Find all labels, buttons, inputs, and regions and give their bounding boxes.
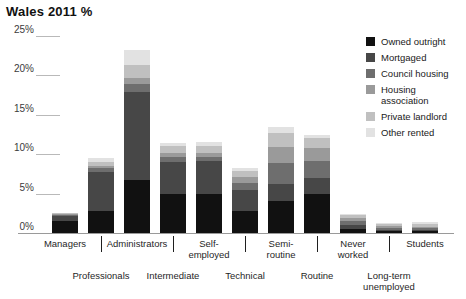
bar-segment	[196, 161, 222, 195]
bar-segment	[88, 172, 114, 211]
x-axis-labels: ManagersProfessionalsAdministratorsInter…	[0, 234, 466, 299]
y-gridline	[36, 75, 60, 76]
legend-swatch-icon	[366, 85, 375, 94]
bar-segment	[304, 148, 330, 161]
y-axis-tick-label: 5%	[0, 182, 34, 193]
y-gridline	[36, 154, 60, 155]
legend-swatch-icon	[366, 69, 375, 78]
bar-segment	[304, 161, 330, 178]
x-axis-label-technical: Technical	[208, 270, 282, 281]
legend-label: Private landlord	[381, 111, 447, 122]
legend-swatch-icon	[366, 128, 375, 137]
chart-legend: Owned outrightMortgagedCouncil housingHo…	[366, 36, 466, 143]
bar-professionals[interactable]	[88, 158, 114, 233]
chart-container: Wales 2011 % 25%20%15%10%5%0% ManagersPr…	[0, 0, 466, 299]
legend-label: Other rented	[381, 127, 434, 138]
bar-segment	[232, 190, 258, 210]
bar-segment	[268, 184, 294, 201]
x-axis-label-administrators: Administrators	[100, 238, 174, 249]
bar-segment	[268, 201, 294, 233]
bar-segment	[124, 92, 150, 180]
bar-segment	[196, 146, 222, 153]
x-axis-label-intermediate: Intermediate	[136, 270, 210, 281]
bar-segment	[304, 138, 330, 148]
x-axis-label-never-worked: Neverworked	[316, 238, 390, 260]
x-axis-group-separator	[101, 236, 102, 252]
bar-segment	[124, 84, 150, 92]
bar-segment	[124, 65, 150, 78]
bar-segment	[304, 178, 330, 194]
legend-item[interactable]: Private landlord	[366, 111, 466, 122]
y-axis-tick-label: 25%	[0, 24, 34, 35]
chart-title: Wales 2011 %	[6, 4, 92, 19]
legend-label: Council housing	[381, 68, 449, 79]
y-axis-tick-label: 15%	[0, 103, 34, 114]
x-axis-label-students: Students	[388, 238, 462, 249]
x-axis-group-separator	[389, 236, 390, 252]
bar-managers[interactable]	[52, 213, 78, 233]
bar-administrators[interactable]	[124, 50, 150, 233]
bar-segment	[232, 183, 258, 191]
y-axis-tick-label: 0%	[0, 221, 34, 232]
bar-segment	[88, 211, 114, 233]
legend-swatch-icon	[366, 112, 375, 121]
legend-item[interactable]: Mortgaged	[366, 52, 466, 63]
y-gridline	[36, 36, 60, 37]
bar-never-worked[interactable]	[340, 214, 366, 233]
bar-semi-routine[interactable]	[268, 127, 294, 233]
bar-segment	[160, 194, 186, 233]
legend-swatch-icon	[366, 37, 375, 46]
legend-item[interactable]: Owned outright	[366, 36, 466, 47]
bar-segment	[124, 180, 150, 233]
x-axis-label-professionals: Professionals	[64, 270, 138, 281]
bar-long-term-unemployed[interactable]	[376, 223, 402, 233]
bar-segment	[160, 162, 186, 194]
y-gridline	[36, 194, 60, 195]
bar-technical[interactable]	[232, 168, 258, 233]
legend-item[interactable]: Housing association	[366, 84, 466, 106]
bar-segment	[268, 147, 294, 163]
x-axis-label-long-term-unemployed: Long-termunemployed	[352, 270, 426, 292]
bar-segment	[52, 221, 78, 233]
bar-routine[interactable]	[304, 135, 330, 233]
bar-segment	[196, 194, 222, 233]
y-gridline	[36, 115, 60, 116]
x-axis-group-separator	[173, 236, 174, 252]
x-axis-label-managers: Managers	[28, 238, 102, 249]
bar-segment	[124, 50, 150, 65]
x-axis-group-separator	[245, 236, 246, 252]
legend-label: Mortgaged	[381, 52, 426, 63]
bar-segment	[304, 194, 330, 233]
y-axis-tick-label: 10%	[0, 142, 34, 153]
legend-item[interactable]: Council housing	[366, 68, 466, 79]
legend-label: Owned outright	[381, 36, 445, 47]
plot-area: 25%20%15%10%5%0%	[52, 36, 352, 233]
x-axis-label-routine: Routine	[280, 270, 354, 281]
bar-self-employed[interactable]	[196, 142, 222, 233]
x-axis-label-semi-routine: Semi-routine	[244, 238, 318, 260]
bar-segment	[232, 211, 258, 233]
legend-swatch-icon	[366, 53, 375, 62]
legend-label: Housing association	[381, 84, 466, 106]
bar-intermediate[interactable]	[160, 143, 186, 233]
legend-item[interactable]: Other rented	[366, 127, 466, 138]
bar-segment	[268, 133, 294, 147]
x-axis-group-separator	[317, 236, 318, 252]
bar-students[interactable]	[412, 222, 438, 233]
x-axis-label-self-employed: Self-employed	[172, 238, 246, 260]
y-axis-tick-label: 20%	[0, 63, 34, 74]
bar-segment	[268, 163, 294, 184]
